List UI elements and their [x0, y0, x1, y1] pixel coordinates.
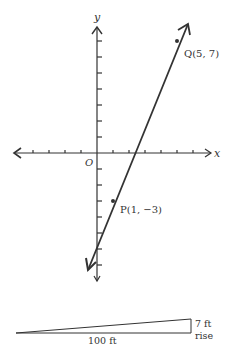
line-pq	[88, 24, 188, 270]
y-axis-label: y	[93, 11, 101, 24]
rise-value-label: 7 ft	[195, 318, 212, 329]
coordinate-diagram: y x O Q(5, 7) P(1, −3) 7 ft rise 100 ft	[0, 0, 240, 345]
point-p	[111, 199, 115, 203]
point-q-label: Q(5, 7)	[184, 48, 219, 59]
slope-triangle	[16, 319, 191, 333]
rise-word-label: rise	[195, 330, 213, 341]
run-label: 100 ft	[88, 335, 117, 345]
point-q	[175, 39, 179, 43]
origin-label: O	[85, 157, 93, 168]
point-p-label: P(1, −3)	[120, 204, 162, 215]
x-axis-label: x	[214, 147, 221, 160]
